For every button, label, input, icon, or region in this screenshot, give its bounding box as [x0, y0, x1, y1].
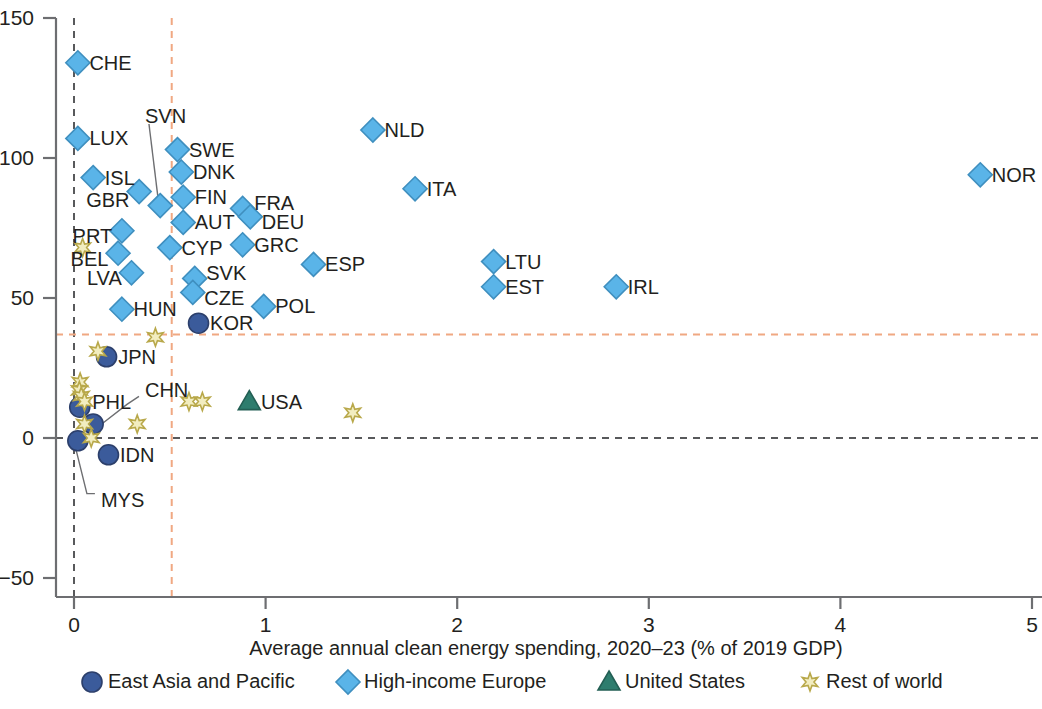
marker-diamond [231, 233, 255, 257]
x-tick-label: 4 [835, 613, 847, 636]
point-label-GRC: GRC [254, 234, 298, 256]
marker-diamond [110, 219, 134, 243]
data-point-labels: KORJPNPHLCHNMYSIDNCHENORNLDLUXSWEDNKISLI… [71, 52, 1037, 511]
point-label-FIN: FIN [195, 186, 227, 208]
marker-diamond [302, 252, 326, 276]
marker-triangle [238, 391, 260, 410]
marker-star [129, 415, 145, 433]
x-tick-label: 5 [1026, 613, 1038, 636]
marker-star [148, 328, 164, 346]
point-label-SWE: SWE [189, 139, 235, 161]
marker-circle [82, 672, 102, 692]
marker-diamond [66, 126, 90, 150]
point-label-ITA: ITA [427, 178, 457, 200]
point-label-LUX: LUX [89, 127, 128, 149]
marker-diamond [165, 138, 189, 162]
legend-label: East Asia and Pacific [108, 670, 295, 692]
point-label-PHL: PHL [92, 391, 131, 413]
point-label-SVK: SVK [206, 262, 247, 284]
legend-label: United States [625, 670, 745, 692]
point-label-USA: USA [261, 391, 303, 413]
marker-star [195, 393, 211, 411]
marker-triangle [598, 671, 620, 690]
legend-label: Rest of world [826, 670, 943, 692]
point-label-GBR: GBR [86, 189, 129, 211]
scatter-chart: −50050100150 012345 KORJPNPHLCHNMYSIDNCH… [0, 0, 1042, 709]
legend-label: High-income Europe [364, 670, 546, 692]
point-label-ISL: ISL [105, 167, 135, 189]
marker-diamond [171, 185, 195, 209]
point-label-IRL: IRL [628, 276, 659, 298]
point-label-DEU: DEU [262, 211, 304, 233]
marker-diamond [169, 160, 193, 184]
x-tick-label: 1 [260, 613, 272, 636]
point-label-CYP: CYP [181, 237, 222, 259]
point-label-NOR: NOR [992, 164, 1036, 186]
legend-item-rest-of-world[interactable]: Rest of world [802, 670, 943, 692]
marker-star [802, 673, 818, 691]
point-label-SVN: SVN [145, 105, 186, 127]
marker-diamond [148, 194, 172, 218]
marker-diamond [604, 275, 628, 299]
leader-line-SVN [149, 124, 158, 200]
point-label-CHN: CHN [145, 379, 188, 401]
marker-diamond [171, 210, 195, 234]
x-tick-label: 3 [643, 613, 655, 636]
marker-diamond [403, 177, 427, 201]
y-tick-label: 50 [11, 286, 34, 309]
x-axis-tick-labels: 012345 [68, 613, 1038, 636]
point-label-JPN: JPN [118, 346, 156, 368]
marker-diamond [110, 297, 134, 321]
axes [43, 18, 1042, 609]
marker-circle [98, 445, 118, 465]
point-label-EST: EST [505, 276, 544, 298]
marker-diamond [336, 670, 360, 694]
marker-diamond [361, 118, 385, 142]
point-label-IDN: IDN [120, 444, 154, 466]
point-label-KOR: KOR [210, 312, 253, 334]
marker-star [345, 404, 361, 422]
chart-legend: East Asia and PacificHigh-income EuropeU… [82, 670, 943, 694]
marker-diamond [252, 294, 276, 318]
marker-diamond [66, 51, 90, 75]
point-label-AUT: AUT [195, 211, 235, 233]
marker-diamond [968, 163, 992, 187]
plot-canvas: −50050100150 012345 KORJPNPHLCHNMYSIDNCH… [0, 0, 1042, 709]
x-tick-label: 0 [68, 613, 80, 636]
marker-diamond [482, 250, 506, 274]
point-label-ESP: ESP [325, 253, 365, 275]
x-axis-title: Average annual clean energy spending, 20… [249, 637, 842, 659]
marker-diamond [81, 166, 105, 190]
legend-item-united-states[interactable]: United States [598, 670, 745, 692]
point-label-MYS: MYS [101, 489, 144, 511]
marker-circle [189, 313, 209, 333]
x-tick-label: 2 [451, 613, 463, 636]
point-label-NLD: NLD [384, 119, 424, 141]
y-tick-label: −50 [0, 566, 34, 589]
legend-item-high-income-europe[interactable]: High-income Europe [336, 670, 546, 694]
y-tick-label: 100 [0, 146, 34, 169]
point-label-HUN: HUN [133, 298, 176, 320]
marker-diamond [482, 275, 506, 299]
point-label-CZE: CZE [204, 287, 244, 309]
point-label-PRT: PRT [73, 225, 113, 247]
point-label-POL: POL [275, 295, 315, 317]
point-label-DNK: DNK [193, 161, 236, 183]
point-label-LVA: LVA [87, 267, 122, 289]
marker-diamond [158, 236, 182, 260]
legend-item-east-asia-and-pacific[interactable]: East Asia and Pacific [82, 670, 295, 692]
marker-diamond [119, 261, 143, 285]
y-tick-label: 150 [0, 6, 34, 29]
point-label-CHE: CHE [89, 52, 131, 74]
point-label-LTU: LTU [505, 251, 541, 273]
y-axis-tick-labels: −50050100150 [0, 6, 34, 589]
y-tick-label: 0 [22, 426, 34, 449]
leader-line-MYS [76, 449, 95, 494]
